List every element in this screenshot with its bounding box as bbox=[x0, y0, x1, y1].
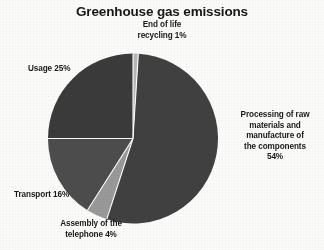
pie-label-assembly-of-telephone: Assembly of the telephone 4% bbox=[38, 219, 144, 240]
pie-label-end-of-life-recycling: End of life recycling 1% bbox=[0, 20, 324, 41]
pie-chart-svg bbox=[48, 53, 218, 224]
pie-label-usage: Usage 25% bbox=[28, 64, 70, 75]
pie-label-processing-raw-materials: Processing of raw materials and manufact… bbox=[231, 110, 319, 163]
pie-label-transport: Transport 16% bbox=[14, 190, 69, 201]
scanned-page-canvas: Greenhouse gas emissions End of life rec… bbox=[0, 0, 324, 250]
page-title: Greenhouse gas emissions bbox=[0, 4, 324, 19]
pie-chart bbox=[48, 53, 218, 224]
